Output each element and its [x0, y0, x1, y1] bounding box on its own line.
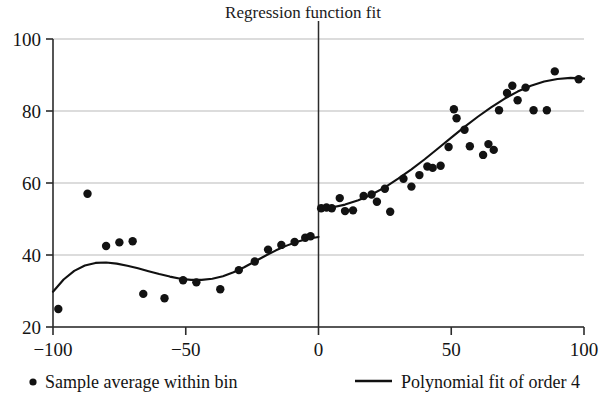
data-point	[216, 285, 224, 293]
data-point	[160, 294, 168, 302]
data-point	[450, 105, 458, 113]
data-point	[521, 83, 529, 91]
data-point	[341, 207, 349, 215]
data-point	[336, 194, 344, 202]
x-tick-label-3: 50	[442, 339, 461, 360]
x-axis-tick-labels: −100−50050100	[33, 339, 598, 360]
data-point	[83, 190, 91, 198]
data-point	[373, 198, 381, 206]
data-point	[192, 278, 200, 286]
data-point	[381, 185, 389, 193]
legend-label-sample-average: Sample average within bin	[45, 372, 237, 392]
data-point	[277, 241, 285, 249]
data-point	[290, 238, 298, 246]
tick-marks	[46, 39, 584, 335]
data-point	[460, 126, 468, 134]
data-point	[513, 96, 521, 104]
data-point	[359, 192, 367, 200]
y-tick-label-4: 100	[13, 29, 42, 50]
y-tick-label-0: 20	[22, 317, 41, 338]
x-tick-label-0: −100	[33, 339, 72, 360]
data-point	[543, 106, 551, 114]
data-point	[490, 146, 498, 154]
data-point	[328, 204, 336, 212]
data-point	[251, 257, 259, 265]
chart-title: Regression function fit	[225, 3, 381, 22]
data-point	[529, 106, 537, 114]
y-axis-tick-labels: 20406080100	[13, 29, 42, 338]
x-tick-label-4: 100	[570, 339, 599, 360]
data-point	[508, 82, 516, 90]
chart-legend: Sample average within bin Polynomial fit…	[29, 372, 580, 392]
data-point	[574, 75, 582, 83]
data-point	[452, 114, 460, 122]
data-point	[444, 143, 452, 151]
data-point	[428, 164, 436, 172]
data-point	[479, 151, 487, 159]
data-point	[399, 174, 407, 182]
data-point	[179, 276, 187, 284]
data-point	[503, 89, 511, 97]
data-point	[407, 182, 415, 190]
data-point	[102, 242, 110, 250]
y-tick-label-3: 80	[22, 101, 41, 122]
y-tick-label-1: 40	[22, 245, 41, 266]
data-point	[551, 67, 559, 75]
regression-discontinuity-chart: −100−50050100 20406080100 Regression fun…	[0, 0, 606, 398]
data-point	[306, 232, 314, 240]
data-point	[367, 190, 375, 198]
x-tick-label-2: 0	[314, 339, 324, 360]
legend-label-polynomial-fit: Polynomial fit of order 4	[401, 372, 580, 392]
data-point	[349, 206, 357, 214]
chart-canvas: −100−50050100 20406080100 Regression fun…	[0, 0, 606, 398]
data-point	[115, 238, 123, 246]
data-point	[495, 106, 503, 114]
data-point	[235, 266, 243, 274]
data-point	[466, 142, 474, 150]
data-point	[436, 162, 444, 170]
data-point	[139, 290, 147, 298]
data-point	[415, 171, 423, 179]
legend-dot-marker-icon	[29, 378, 36, 385]
data-point	[264, 245, 272, 253]
data-point	[386, 208, 394, 216]
x-tick-label-1: −50	[171, 339, 201, 360]
y-tick-label-2: 60	[22, 173, 41, 194]
data-point	[54, 305, 62, 313]
data-point	[128, 237, 136, 245]
